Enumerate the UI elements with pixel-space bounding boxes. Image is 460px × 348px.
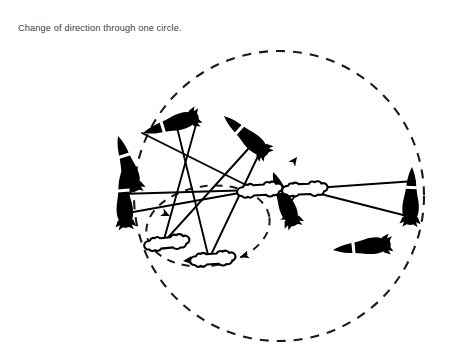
horse-far-right bbox=[399, 167, 422, 228]
lunge-line-1 bbox=[142, 133, 256, 190]
handler-center-right bbox=[282, 181, 328, 197]
horse-top-right bbox=[217, 108, 276, 164]
page-canvas: Change of direction through one circle. bbox=[0, 0, 460, 348]
diagram-svg bbox=[0, 0, 460, 348]
handler-lower-left bbox=[143, 233, 190, 252]
horse-bottom-right bbox=[332, 233, 394, 260]
direction-arrow-right-up bbox=[288, 155, 300, 167]
equestrian-diagram bbox=[0, 0, 460, 348]
direction-arrow-inner-lower bbox=[239, 250, 250, 260]
